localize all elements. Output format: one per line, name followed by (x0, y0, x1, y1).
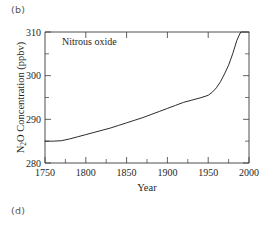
y-tick-label-310: 310 (26, 27, 41, 38)
x-axis-title: Year (137, 182, 157, 193)
figure-panel-b: (b) (d) (0, 0, 273, 225)
panel-label-d: (d) (11, 205, 25, 216)
x-tick-label-1900: 1900 (157, 167, 177, 178)
y-axis-title: N2O Concentration (ppbv) (15, 41, 28, 153)
x-tick-label-1950: 1950 (198, 167, 218, 178)
y-tick-label-290: 290 (26, 114, 41, 125)
y-axis-minor-ticks (45, 54, 49, 141)
x-tick-label-1750: 1750 (35, 167, 55, 178)
y-tick-label-300: 300 (26, 70, 41, 81)
y-axis-right-ticks (243, 54, 249, 163)
data-series-nitrous-oxide (45, 32, 249, 141)
x-tick-labels: 1750 1800 1850 1900 1950 2000 (35, 167, 259, 178)
y-axis-title-suffix: O Concentration (ppbv) (15, 41, 27, 142)
x-tick-label-2000: 2000 (239, 167, 259, 178)
x-axis-minor-ticks (65, 159, 228, 163)
y-tick-labels: 280 290 300 310 (26, 27, 41, 169)
x-tick-label-1800: 1800 (76, 167, 96, 178)
plot-frame (45, 32, 249, 163)
series-annotation-nitrous-oxide: Nitrous oxide (62, 36, 117, 47)
x-tick-label-1850: 1850 (117, 167, 137, 178)
panel-label-b: (b) (11, 4, 25, 15)
nitrous-oxide-line-chart: 280 290 300 310 1750 1800 1850 1900 1950… (0, 0, 273, 225)
